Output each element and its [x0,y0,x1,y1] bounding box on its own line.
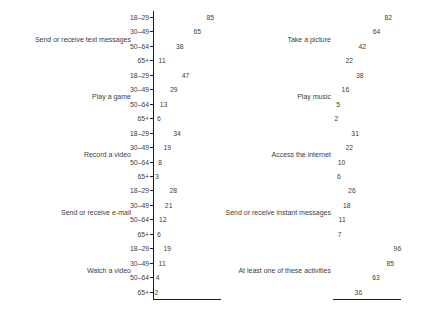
data-point-value: 11 [339,216,346,223]
age-axis-label: 65+ [137,172,149,179]
age-axis-label: 18–29 [130,245,149,252]
age-axis-label: 30–49 [130,86,149,93]
age-axis-label: 18–29 [130,71,149,78]
age-axis-label: 30–49 [130,259,149,266]
age-axis-label: 30–49 [130,201,149,208]
data-point-value: 2 [334,115,338,122]
data-point-value: 22 [346,57,354,64]
data-point-value: 13 [160,100,168,107]
data-point-value: 42 [359,42,367,49]
data-point-value: 8 [158,158,162,165]
age-axis-label: 50–64 [130,42,149,49]
data-point-value: 3 [155,172,159,179]
activity-label: Take a picture [287,35,331,42]
data-point-value: 11 [159,57,166,64]
data-point-value: 6 [337,172,341,179]
age-axis-label: 18–29 [130,14,149,21]
age-axis-label: 50–64 [130,274,149,281]
age-axis-label: 65+ [137,115,149,122]
x-axis-line [153,299,221,300]
age-axis-label: 50–64 [130,100,149,107]
data-point-value: 29 [170,86,178,93]
age-axis-label: 65+ [137,57,149,64]
activity-label: Send or receive e-mail [61,209,131,216]
data-point-value: 21 [165,201,173,208]
data-point-value: 96 [394,245,402,252]
data-point-value: 47 [182,71,190,78]
data-point-value: 36 [355,288,363,295]
data-point-value: 85 [206,14,214,21]
dotplot-figure: Send or receive text messages18–298530–4… [0,0,429,324]
age-axis-label: 30–49 [130,144,149,151]
data-point-value: 6 [157,115,161,122]
age-axis-label: 50–64 [130,158,149,165]
activity-label: Send or receive text messages [35,35,131,42]
data-point-value: 5 [336,100,340,107]
x-axis-line [333,299,401,300]
activity-label: Watch a video [87,266,131,273]
age-axis-label: 18–29 [130,187,149,194]
age-axis-label: 65+ [137,230,149,237]
data-point-value: 2 [154,288,158,295]
data-point-value: 19 [164,144,172,151]
data-point-value: 64 [373,28,381,35]
y-axis-line [153,11,154,300]
data-point-value: 10 [338,158,346,165]
activity-label: Send or receive instant messages [226,209,331,216]
data-point-value: 85 [386,259,394,266]
age-axis-label: 30–49 [130,28,149,35]
data-point-value: 16 [342,86,350,93]
data-point-value: 7 [338,230,342,237]
data-point-value: 12 [159,216,167,223]
data-point-value: 38 [356,71,364,78]
data-point-value: 4 [156,274,160,281]
activity-label: Access the internet [271,151,331,158]
data-point-value: 19 [164,245,172,252]
data-point-value: 34 [173,129,181,136]
activity-label: Record a video [84,151,131,158]
age-axis-label: 65+ [137,288,149,295]
data-point-value: 26 [348,187,356,194]
data-point-value: 11 [159,259,166,266]
age-axis-label: 50–64 [130,216,149,223]
data-point-value: 22 [346,144,354,151]
activity-label: Play music [297,93,331,100]
data-point-value: 28 [169,187,177,194]
data-point-value: 18 [343,201,351,208]
data-point-value: 65 [193,28,201,35]
age-axis-label: 18–29 [130,129,149,136]
data-point-value: 6 [157,230,161,237]
data-point-value: 63 [372,274,380,281]
data-point-value: 38 [176,42,184,49]
data-point-value: 31 [351,129,359,136]
activity-label: At least one of these activities [238,266,331,273]
activity-label: Play a game [92,93,131,100]
data-point-value: 82 [385,14,393,21]
